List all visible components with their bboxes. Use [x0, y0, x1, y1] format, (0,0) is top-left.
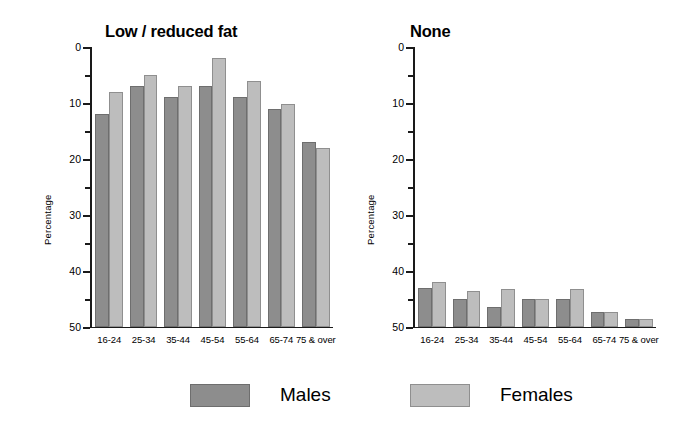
bar-group: [553, 47, 587, 327]
y-tick-minor: [85, 187, 90, 189]
y-tick-major: [83, 271, 90, 273]
y-tick-label: 30: [57, 209, 81, 221]
grouped-bar-chart-figure: Low / reduced fat Percentage 50403020100…: [0, 0, 692, 440]
bar-females-65-74: [281, 104, 295, 327]
legend-label-males: Males: [280, 384, 331, 406]
bar-group: [299, 47, 333, 327]
bar-males-45-54: [522, 299, 536, 327]
bar-females-55-64: [247, 81, 261, 327]
x-tick-label: 35-44: [166, 334, 190, 345]
bar-group: [484, 47, 518, 327]
legend-swatch-females-icon: [410, 384, 470, 407]
bar-females-16-24: [109, 92, 123, 327]
y-tick-label: 30: [380, 209, 404, 221]
y-tick-label: 10: [57, 97, 81, 109]
y-tick-minor: [85, 243, 90, 245]
y-tick-label: 20: [380, 153, 404, 165]
bar-females-45-54: [212, 58, 226, 327]
bar-females-16-24: [432, 282, 446, 327]
bar-females-35-44: [501, 289, 515, 327]
y-tick-major: [406, 215, 413, 217]
bar-group: [622, 47, 656, 327]
bar-males-35-44: [487, 307, 501, 327]
x-tick-label: 55-64: [235, 334, 259, 345]
y-tick-minor: [408, 75, 413, 77]
bar-females-25-34: [467, 291, 481, 327]
x-tick-label: 25-34: [455, 334, 479, 345]
bar-group: [415, 47, 449, 327]
x-tick-label: 55-64: [558, 334, 582, 345]
x-tick-label: 65-74: [269, 334, 293, 345]
x-tick-label: 16-24: [420, 334, 444, 345]
y-tick-minor: [408, 187, 413, 189]
y-tick-minor: [408, 243, 413, 245]
y-tick-major: [83, 47, 90, 49]
y-tick-label: 40: [380, 265, 404, 277]
x-tick-label: 25-34: [132, 334, 156, 345]
bar-group: [126, 47, 160, 327]
y-tick-label: 50: [380, 321, 404, 333]
y-tick-major: [83, 215, 90, 217]
x-tick-label: 75 & over: [619, 334, 659, 345]
y-tick-minor: [85, 75, 90, 77]
bar-females-45-54: [535, 299, 549, 327]
y-tick-minor: [85, 131, 90, 133]
y-tick-major: [406, 271, 413, 273]
bar-males-25-34: [130, 86, 144, 327]
bar-males-55-64: [233, 97, 247, 327]
bar-males-75-over: [625, 319, 639, 327]
x-tick-label: 45-54: [201, 334, 225, 345]
y-axis-label-left: Percentage: [42, 194, 53, 245]
y-tick-major: [406, 47, 413, 49]
bar-group: [449, 47, 483, 327]
y-tick-major: [406, 159, 413, 161]
bar-group: [195, 47, 229, 327]
y-tick-major: [83, 103, 90, 105]
bar-females-25-34: [144, 75, 158, 327]
bar-group: [264, 47, 298, 327]
bar-males-16-24: [418, 288, 432, 327]
x-tick-label: 75 & over: [296, 334, 336, 345]
y-tick-minor: [408, 131, 413, 133]
bar-group: [92, 47, 126, 327]
y-tick-label: 0: [380, 41, 404, 53]
y-tick-major: [406, 327, 413, 329]
bar-group: [161, 47, 195, 327]
chart-legend: Males Females: [0, 378, 692, 426]
bar-females-35-44: [178, 86, 192, 327]
bar-females-55-64: [570, 289, 584, 327]
y-tick-major: [83, 327, 90, 329]
x-tick-label: 45-54: [524, 334, 548, 345]
x-tick-label: 16-24: [97, 334, 121, 345]
bar-males-35-44: [164, 97, 178, 327]
panel-title-left: Low / reduced fat: [105, 22, 237, 41]
bar-group: [587, 47, 621, 327]
bar-females-75-over: [639, 319, 653, 327]
bar-females-75-over: [316, 148, 330, 327]
bar-males-65-74: [268, 109, 282, 327]
y-tick-label: 40: [57, 265, 81, 277]
panel-none: None Percentage 50403020100 16-2425-3435…: [346, 0, 692, 375]
panel-low-reduced-fat: Low / reduced fat Percentage 50403020100…: [0, 0, 346, 375]
y-tick-label: 20: [57, 153, 81, 165]
y-tick-label: 10: [380, 97, 404, 109]
bar-males-16-24: [95, 114, 109, 327]
legend-item-males: Males: [190, 378, 331, 412]
bar-females-65-74: [604, 312, 618, 327]
y-tick-major: [406, 103, 413, 105]
y-tick-minor: [408, 299, 413, 301]
bar-group: [518, 47, 552, 327]
bar-group: [230, 47, 264, 327]
y-tick-label: 0: [57, 41, 81, 53]
panel-title-right: None: [410, 22, 450, 41]
legend-label-females: Females: [500, 384, 573, 406]
bar-males-25-34: [453, 299, 467, 327]
bar-males-65-74: [591, 312, 605, 327]
bar-males-55-64: [556, 299, 570, 327]
bar-males-45-54: [199, 86, 213, 327]
x-tick-label: 65-74: [592, 334, 616, 345]
bar-area-right: [415, 47, 656, 327]
y-tick-major: [83, 159, 90, 161]
bar-area-left: [92, 47, 333, 327]
y-tick-minor: [85, 299, 90, 301]
